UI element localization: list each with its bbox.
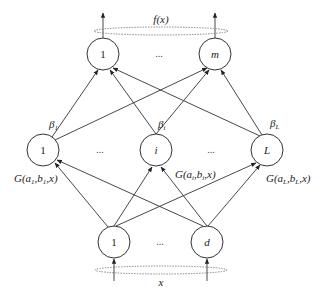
output-node-m-label: m: [211, 48, 219, 60]
hidden-node-i-label: i: [154, 144, 157, 156]
hidden-to-output-edges: [52, 68, 262, 140]
hidden-node-L-label: L: [263, 144, 270, 156]
input-label: x: [158, 276, 164, 288]
output-ellipsis: ...: [155, 48, 163, 59]
output-layer: 1 ... m: [87, 38, 231, 70]
edge-h1-o1: [52, 70, 98, 137]
beta-labels: β1 βi βL: [48, 117, 279, 132]
beta-L-label: βL: [269, 117, 279, 131]
input-ellipsis: ...: [156, 236, 164, 247]
input-node-d-label: d: [204, 236, 210, 248]
edge-hi-o1: [110, 70, 156, 134]
input-node-1-label: 1: [111, 236, 117, 248]
hidden-node-1-label: 1: [40, 144, 46, 156]
edge-xd-hL: [208, 165, 260, 226]
input-layer: 1 ... d: [98, 226, 223, 258]
hidden-ellipsis-left: ...: [96, 144, 104, 155]
activation-1-label: G(a1,b1,x): [14, 172, 58, 186]
activation-L-label: G(aL,bL,x): [266, 172, 311, 186]
edge-h1-om: [55, 68, 207, 140]
activation-labels: G(a1,b1,x) G(ai,bi,x) G(aL,bL,x): [14, 168, 311, 186]
output-function-label: f(x): [153, 13, 169, 26]
elm-network-diagram: f(x) 1 ... m 1 ... i ... L β1: [0, 0, 324, 300]
edge-x1-hi: [114, 167, 152, 226]
edge-x1-h1: [55, 163, 108, 227]
output-group-ellipse: [94, 27, 228, 35]
hidden-ellipsis-right: ...: [207, 144, 215, 155]
output-node-1-label: 1: [100, 48, 106, 60]
input-to-hidden-edges: [55, 160, 260, 227]
hidden-layer: 1 ... i ... L: [27, 134, 283, 166]
activation-i-label: G(ai,bi,x): [175, 168, 216, 182]
beta-1-label: β1: [48, 118, 58, 132]
beta-i-label: βi: [157, 118, 165, 132]
edge-hL-om: [221, 70, 262, 135]
